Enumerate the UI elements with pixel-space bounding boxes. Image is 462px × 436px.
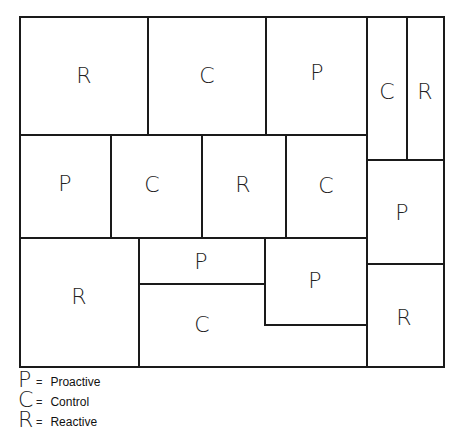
cell-label-reactive: R [235,174,250,196]
divider [147,16,149,136]
cell-label-control: C [194,314,209,336]
divider [264,324,367,326]
divider [19,134,368,136]
legend-letter: R [18,410,34,430]
legend-text: Reactive [50,414,97,430]
cell-label-proactive: P [310,62,323,84]
cell-label-reactive: R [71,286,86,308]
cell-label-reactive: R [396,307,411,329]
divider [366,16,368,368]
divider [285,135,287,239]
divider [265,16,267,136]
cell-label-reactive: R [417,81,432,103]
legend-equals: = [36,394,42,410]
divider [367,159,444,161]
border-right [443,16,445,368]
divider [110,135,112,239]
legend-text: Control [50,394,89,410]
divider [139,283,266,285]
cell-label-proactive: P [395,202,408,224]
cell-label-control: C [379,81,394,103]
legend-equals: = [36,414,42,430]
divider [367,263,444,265]
divider [19,237,368,239]
divider [406,16,408,161]
cell-label-proactive: P [194,251,207,273]
cell-label-reactive: R [76,65,91,87]
border-top [19,16,445,18]
legend: P = Proactive C = Control R = Reactive [18,370,100,430]
cell-label-proactive: P [58,173,71,195]
divider [138,238,140,368]
legend-equals: = [36,374,42,390]
divider [264,238,266,326]
border-bottom [19,366,445,368]
cell-label-control: C [318,175,333,197]
cell-label-proactive: P [308,270,321,292]
cell-label-control: C [199,65,214,87]
legend-item-reactive: R = Reactive [18,410,100,430]
cell-label-control: C [144,174,159,196]
legend-text: Proactive [50,374,100,390]
border-left [19,16,21,368]
divider [201,135,203,239]
